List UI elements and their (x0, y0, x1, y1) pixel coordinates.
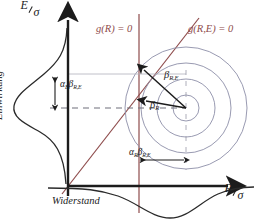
annotation-alpha-E-beta-RE: αEβR,E (60, 80, 82, 90)
fraction-bar-y (28, 6, 32, 13)
beta-RE-subscript-bottom: R,E (142, 152, 150, 158)
beta-R-sub: R (155, 104, 159, 111)
annotation-beta-RE: βR,E (164, 70, 178, 81)
x-axis-title: Widerstand (52, 196, 100, 207)
alpha-E-subscript: E (65, 84, 68, 90)
limit-state-label-gRE: g(R,E) = 0 (188, 24, 233, 35)
x-axis-denominator: σ (238, 188, 244, 202)
limit-state-lines (62, 14, 199, 213)
axes (68, 20, 228, 196)
beta-RE-sub: R,E (169, 74, 178, 81)
x-axis-label: Rσ (224, 186, 244, 198)
y-axis-denominator: σ (34, 5, 40, 19)
alpha-R-subscript: R (134, 152, 137, 158)
pdf-curve-einwirkung (14, 28, 67, 184)
annotation-alpha-R-beta-RE: αRβR,E (129, 148, 151, 158)
limit-state-label-gR: g(R) = 0 (96, 24, 132, 35)
x-axis-numerator: R (224, 181, 231, 195)
y-axis-label: Eσ (20, 3, 40, 15)
y-axis-numerator: E (20, 0, 27, 12)
fraction-bar-x (232, 189, 236, 196)
y-axis-title: Einwirkung (0, 71, 5, 120)
figure-canvas: Eσ Rσ g(R) = 0 g(R,E) = 0 αEβR,E αRβR,E … (0, 0, 254, 224)
beta-RE-subscript-left: R,E (73, 84, 81, 90)
annotation-beta-R: βR (150, 100, 159, 111)
